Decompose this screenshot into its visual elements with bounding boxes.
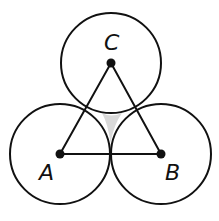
label-a: A: [37, 160, 54, 185]
point-c: [107, 59, 116, 68]
label-b: B: [165, 160, 180, 185]
point-a: [56, 150, 65, 159]
label-c: C: [104, 30, 120, 55]
diagram-canvas: A B C: [0, 0, 219, 221]
point-b: [157, 150, 166, 159]
